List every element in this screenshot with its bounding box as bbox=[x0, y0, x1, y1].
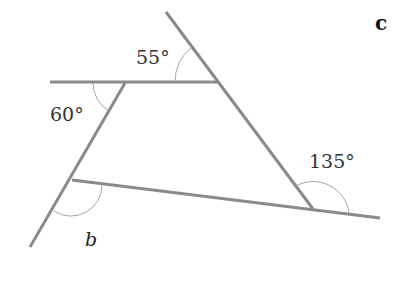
angle-60-arc bbox=[93, 83, 109, 111]
angle-60-label: 60° bbox=[50, 103, 84, 125]
geometry-diagram: 55° 60° 135° b c bbox=[0, 0, 407, 292]
angle-55-label: 55° bbox=[136, 46, 170, 68]
angle-b-label: b bbox=[85, 228, 97, 250]
part-label: c bbox=[375, 11, 387, 35]
bottom-line bbox=[72, 180, 380, 218]
right-slanted-line bbox=[166, 12, 313, 209]
angle-b-arc bbox=[54, 184, 102, 216]
angle-55-arc bbox=[175, 47, 192, 82]
angle-135-label: 135° bbox=[309, 150, 355, 172]
